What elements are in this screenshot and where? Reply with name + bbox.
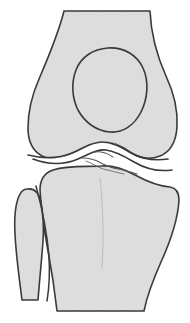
knee-joint-illustration: Knee joint anterior view line drawing bbox=[0, 0, 190, 323]
knee-joint-figure: Knee joint anterior view line drawing bbox=[0, 0, 190, 323]
